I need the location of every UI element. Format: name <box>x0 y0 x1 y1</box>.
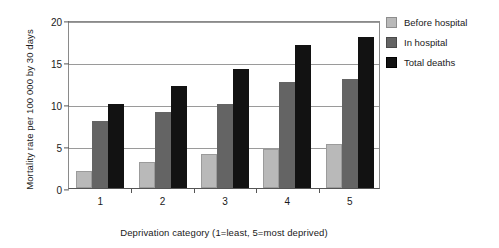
bar <box>263 149 279 188</box>
bar <box>358 37 374 188</box>
y-tick-mark <box>64 189 69 190</box>
y-tick-label: 10 <box>51 101 62 112</box>
chart-figure: Mortality rate per 100 000 by 30 days 05… <box>0 0 499 248</box>
bar <box>76 171 92 188</box>
legend-swatch-icon <box>386 37 397 48</box>
bar-group <box>263 22 311 188</box>
x-tick-label: 1 <box>97 196 103 207</box>
chart-legend: Before hospitalIn hospitalTotal deaths <box>386 12 496 72</box>
y-axis-title: Mortality rate per 100 000 by 30 days <box>24 10 35 210</box>
x-tick-mark <box>131 188 132 193</box>
bar <box>342 79 358 188</box>
bar <box>171 86 187 188</box>
x-tick-label: 5 <box>347 196 353 207</box>
bar <box>217 104 233 188</box>
bar-group <box>201 22 249 188</box>
bar <box>201 154 217 188</box>
x-tick-label: 4 <box>285 196 291 207</box>
y-tick-label: 0 <box>56 185 62 196</box>
bar-group <box>76 22 124 188</box>
x-axis-title: Deprivation category (1=least, 5=most de… <box>68 227 380 238</box>
legend-item: In hospital <box>386 32 496 52</box>
bar <box>279 82 295 188</box>
bar-group <box>326 22 374 188</box>
legend-label: In hospital <box>404 37 447 48</box>
x-tick-label: 3 <box>222 196 228 207</box>
legend-swatch-icon <box>386 57 397 68</box>
legend-item: Before hospital <box>386 12 496 32</box>
bar <box>295 45 311 188</box>
plot-area: 05101520 12345 <box>68 21 380 189</box>
bar <box>233 69 249 188</box>
bar <box>108 104 124 188</box>
x-tick-label: 2 <box>160 196 166 207</box>
bar <box>92 121 108 188</box>
x-tick-mark <box>194 188 195 193</box>
legend-label: Total deaths <box>404 57 455 68</box>
y-tick-label: 20 <box>51 17 62 28</box>
bar <box>326 144 342 188</box>
y-tick-label: 15 <box>51 59 62 70</box>
legend-item: Total deaths <box>386 52 496 72</box>
legend-label: Before hospital <box>404 17 467 28</box>
x-tick-mark <box>319 188 320 193</box>
bar-group <box>139 22 187 188</box>
x-tick-mark <box>256 188 257 193</box>
bar <box>155 112 171 188</box>
bar-series-layer <box>69 22 379 188</box>
y-tick-label: 5 <box>56 143 62 154</box>
legend-swatch-icon <box>386 17 397 28</box>
bar <box>139 162 155 188</box>
